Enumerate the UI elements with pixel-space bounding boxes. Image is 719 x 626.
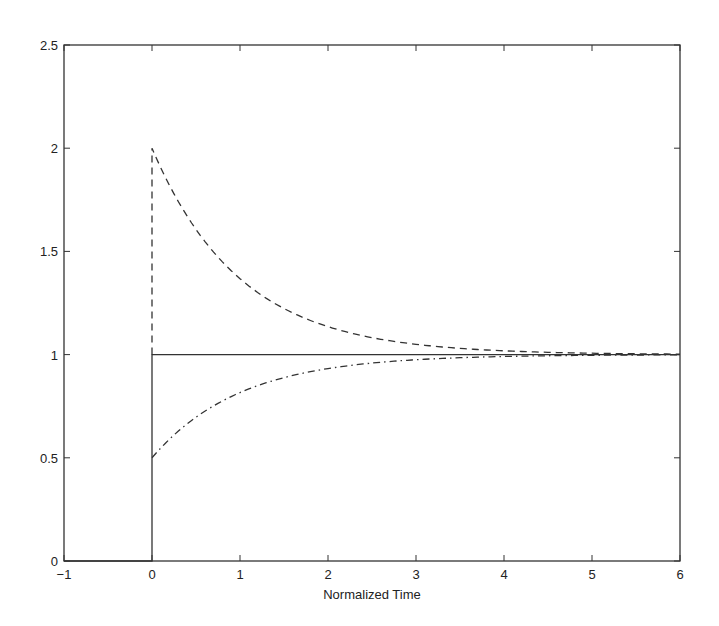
- x-tick-label: 3: [412, 567, 419, 582]
- x-tick-label: −1: [57, 567, 72, 582]
- x-tick-label: 5: [588, 567, 595, 582]
- x-axis-title: Normalized Time: [323, 587, 421, 602]
- plot-lines: [64, 148, 680, 561]
- x-tick-label: 6: [676, 567, 683, 582]
- x-tick-label: 1: [236, 567, 243, 582]
- y-tick-label: 0.5: [40, 451, 58, 466]
- plot-frame: [64, 45, 680, 561]
- y-tick-label: 0: [51, 554, 58, 569]
- x-tick-label: 4: [500, 567, 507, 582]
- series-overshoot-decay: [152, 148, 680, 354]
- axis-ticks: −1012345600.511.522.5: [40, 38, 684, 582]
- y-tick-label: 1: [51, 348, 58, 363]
- series-rise: [152, 355, 680, 458]
- y-tick-label: 2: [51, 141, 58, 156]
- series-step: [64, 355, 680, 561]
- x-tick-label: 2: [324, 567, 331, 582]
- chart: −1012345600.511.522.5 Normalized Time: [0, 0, 719, 626]
- y-tick-label: 2.5: [40, 38, 58, 53]
- x-tick-label: 0: [148, 567, 155, 582]
- y-tick-label: 1.5: [40, 244, 58, 259]
